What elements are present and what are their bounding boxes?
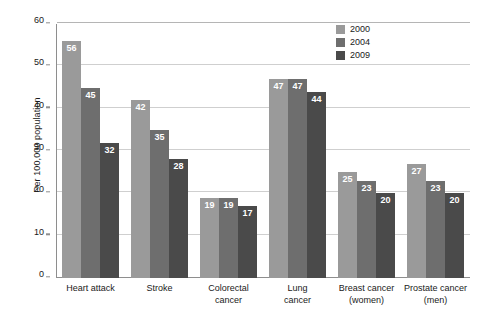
x-axis-label-line: (women)	[332, 294, 401, 306]
bar-groups: 564532423528191917474744252320272320	[56, 24, 470, 278]
x-axis-label-line: Stroke	[125, 282, 194, 294]
bar-value-label: 25	[338, 174, 357, 185]
x-axis-label: Prostate cancer(men)	[401, 282, 470, 306]
bar[interactable]: 17	[238, 206, 257, 278]
bar[interactable]: 27	[407, 164, 426, 278]
bar[interactable]: 47	[269, 79, 288, 278]
bar[interactable]: 19	[200, 198, 219, 278]
bar[interactable]: 32	[100, 143, 119, 278]
x-axis-label-line: Breast cancer	[332, 282, 401, 294]
bar-value-label: 47	[269, 81, 288, 92]
y-tick-label-40: 40	[34, 100, 44, 110]
bar[interactable]: 56	[62, 41, 81, 278]
legend-item[interactable]: 2004	[336, 37, 370, 48]
bar-value-label: 19	[219, 200, 238, 211]
bar-value-label: 27	[407, 166, 426, 177]
y-tick-mark-60	[46, 22, 50, 23]
x-axis-label: Colorectalcancer	[194, 282, 263, 306]
bar[interactable]: 23	[426, 181, 445, 278]
bar-group: 191917	[200, 24, 257, 278]
bar-value-label: 19	[200, 200, 219, 211]
bar[interactable]: 44	[307, 92, 326, 278]
y-tick-label-20: 20	[34, 184, 44, 194]
bar-value-label: 23	[357, 183, 376, 194]
x-axis-labels: Heart attackStrokeColorectalcancerLungca…	[56, 282, 470, 306]
y-tick-mark-0	[46, 276, 50, 277]
bar[interactable]: 20	[445, 193, 464, 278]
bar-value-label: 32	[100, 145, 119, 156]
y-tick-label-10: 10	[34, 227, 44, 237]
x-axis-label-line: Colorectal	[194, 282, 263, 294]
x-axis-label: Breast cancer(women)	[332, 282, 401, 306]
bar-group: 474744	[269, 24, 326, 278]
bar-group: 252320	[338, 24, 395, 278]
legend-label: 2009	[350, 50, 370, 61]
bar-chart: Per 100,000 population 0102030405060 564…	[0, 0, 492, 322]
bar-group: 272320	[407, 24, 464, 278]
y-tick-mark-50	[46, 64, 50, 65]
x-axis-label-line: Lung	[263, 282, 332, 294]
bar[interactable]: 28	[169, 159, 188, 278]
gridline-60	[57, 22, 470, 23]
bar-value-label: 47	[288, 81, 307, 92]
bar-value-label: 23	[426, 183, 445, 194]
bar[interactable]: 47	[288, 79, 307, 278]
y-tick-mark-20	[46, 191, 50, 192]
x-axis-label-line: cancer	[263, 294, 332, 306]
bar-group: 564532	[62, 24, 119, 278]
legend-swatch-icon	[336, 25, 345, 34]
x-axis-label-line: cancer	[194, 294, 263, 306]
legend-swatch-icon	[336, 51, 345, 60]
bar[interactable]: 45	[81, 88, 100, 279]
bar-value-label: 42	[131, 102, 150, 113]
bar[interactable]: 19	[219, 198, 238, 278]
bar-value-label: 44	[307, 94, 326, 105]
bar[interactable]: 23	[357, 181, 376, 278]
bar[interactable]: 25	[338, 172, 357, 278]
bar[interactable]: 42	[131, 100, 150, 278]
bar-value-label: 35	[150, 132, 169, 143]
legend-label: 2000	[350, 24, 370, 35]
y-tick-label-30: 30	[34, 142, 44, 152]
bar-value-label: 56	[62, 43, 81, 54]
y-tick-mark-10	[46, 234, 50, 235]
x-axis-label: Lungcancer	[263, 282, 332, 306]
y-tick-mark-40	[46, 107, 50, 108]
y-tick-label-50: 50	[34, 57, 44, 67]
x-axis-label: Stroke	[125, 282, 194, 306]
bar-value-label: 45	[81, 90, 100, 101]
y-tick-label-60: 60	[34, 15, 44, 25]
bar-value-label: 20	[376, 195, 395, 206]
bar-group: 423528	[131, 24, 188, 278]
bar-value-label: 28	[169, 161, 188, 172]
chart-legend: 200020042009	[336, 24, 370, 61]
x-axis-label-line: Heart attack	[56, 282, 125, 294]
x-axis-label-line: Prostate cancer	[401, 282, 470, 294]
y-axis-ticks: 0102030405060	[0, 24, 50, 278]
legend-swatch-icon	[336, 38, 345, 47]
y-tick-mark-30	[46, 149, 50, 150]
x-axis-label: Heart attack	[56, 282, 125, 306]
x-axis-label-line: (men)	[401, 294, 470, 306]
bar[interactable]: 20	[376, 193, 395, 278]
bar[interactable]: 35	[150, 130, 169, 278]
legend-item[interactable]: 2000	[336, 24, 370, 35]
legend-item[interactable]: 2009	[336, 50, 370, 61]
y-tick-label-0: 0	[39, 269, 44, 279]
bar-value-label: 20	[445, 195, 464, 206]
bar-value-label: 17	[238, 208, 257, 219]
legend-label: 2004	[350, 37, 370, 48]
